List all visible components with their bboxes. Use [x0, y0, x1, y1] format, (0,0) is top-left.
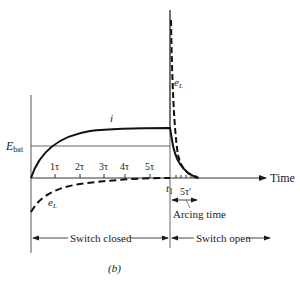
svg-text:1τ: 1τ [50, 161, 59, 172]
arc-pointer [186, 200, 190, 208]
ebat-label: Ebat [5, 139, 24, 154]
arcing-time-label: Arcing time [173, 208, 226, 220]
svg-text:3τ: 3τ [99, 161, 108, 172]
switch-open-label: Switch open [196, 232, 251, 244]
emf-spike-label: eL [174, 76, 183, 90]
figure-caption: (b) [108, 262, 121, 275]
emf-label: eL [48, 196, 57, 210]
rl-switching-diagram: Ebat i eL eL 1τ 2τ 3τ 4τ 5τ t1 Time 5τ′ … [0, 0, 300, 283]
tau-ticks [55, 174, 196, 178]
svg-text:4τ: 4τ [120, 161, 129, 172]
switch-closed-label: Switch closed [70, 232, 132, 244]
t1-label: t1 [166, 182, 173, 196]
current-label: i [110, 112, 113, 124]
tau-tick-labels: 1τ 2τ 3τ 4τ 5τ [50, 161, 154, 172]
time-axis-label: Time [270, 171, 295, 185]
svg-text:5τ: 5τ [145, 161, 154, 172]
svg-text:2τ: 2τ [75, 161, 84, 172]
arc-interval-label: 5τ′ [180, 186, 191, 197]
